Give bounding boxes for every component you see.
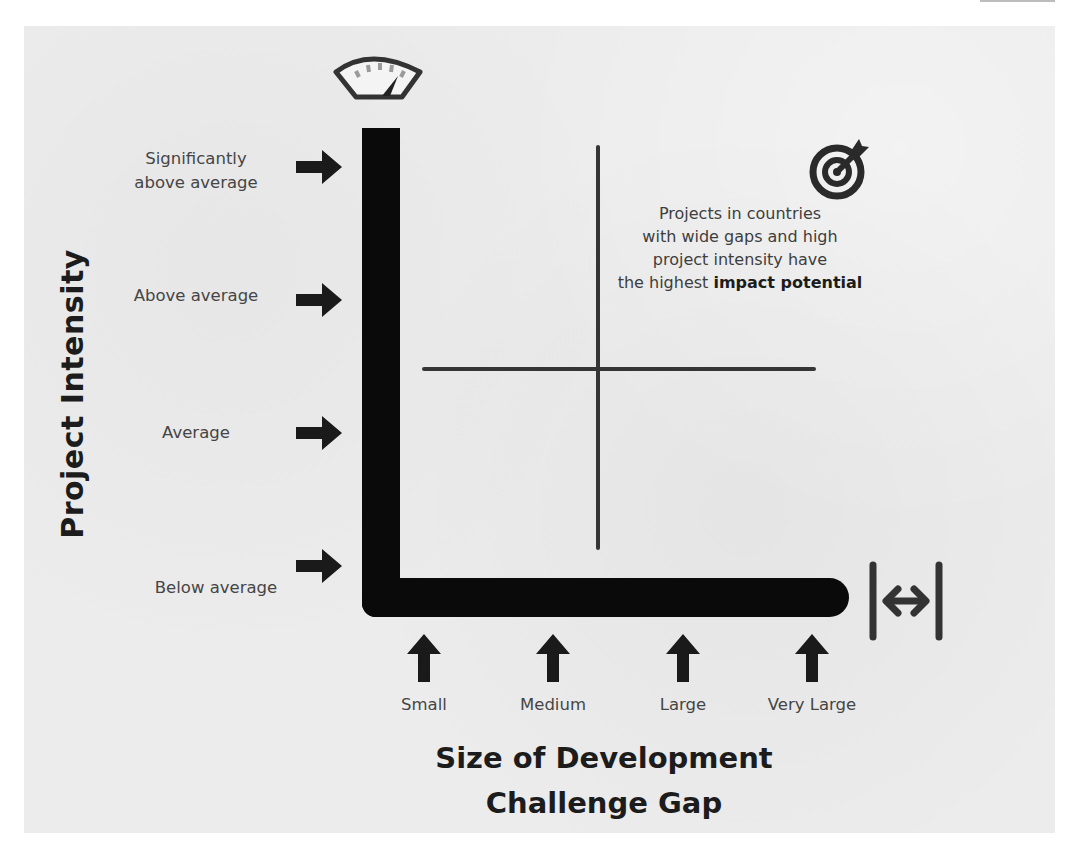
callout-line-2: with wide gaps and high [600, 225, 880, 248]
x-level-large: Large [613, 694, 753, 716]
impact-callout: Projects in countries with wide gaps and… [600, 202, 880, 294]
quadrant-horizontal-divider [422, 367, 816, 371]
x-level-medium: Medium [483, 694, 623, 716]
callout-line-4: the highest impact potential [600, 271, 880, 294]
y-axis-bar [362, 128, 400, 617]
up-arrow-icon [795, 634, 829, 682]
gauge-icon [330, 52, 430, 112]
y-axis-title: Project Intensity [55, 249, 90, 539]
y-level-label-line1: Significantly [96, 147, 296, 171]
callout-line-3: project intensity have [600, 248, 880, 271]
right-arrow-icon [296, 150, 344, 184]
y-level-above-average: Above average [96, 284, 296, 308]
x-axis-title-line1: Size of Development [354, 736, 854, 781]
up-arrow-icon [407, 634, 441, 682]
right-arrow-icon [296, 549, 344, 583]
callout-line-4-prefix: the highest [618, 273, 714, 292]
y-level-below-average: Below average [116, 576, 316, 600]
y-level-label-line2: above average [96, 171, 296, 195]
x-level-very-large: Very Large [742, 694, 882, 716]
x-axis-title: Size of Development Challenge Gap [354, 736, 854, 826]
callout-emphasis: impact potential [713, 273, 862, 292]
right-arrow-icon [296, 416, 344, 450]
up-arrow-icon [666, 634, 700, 682]
target-icon [805, 137, 871, 201]
callout-line-1: Projects in countries [600, 202, 880, 225]
top-rule [980, 0, 1055, 2]
right-arrow-icon [296, 283, 344, 317]
y-level-significantly-above-average: Significantly above average [96, 147, 296, 195]
width-arrows-icon [864, 560, 948, 642]
x-level-small: Small [354, 694, 494, 716]
x-axis-bar [362, 578, 849, 617]
y-level-average: Average [96, 421, 296, 445]
up-arrow-icon [536, 634, 570, 682]
x-axis-title-line2: Challenge Gap [354, 781, 854, 826]
